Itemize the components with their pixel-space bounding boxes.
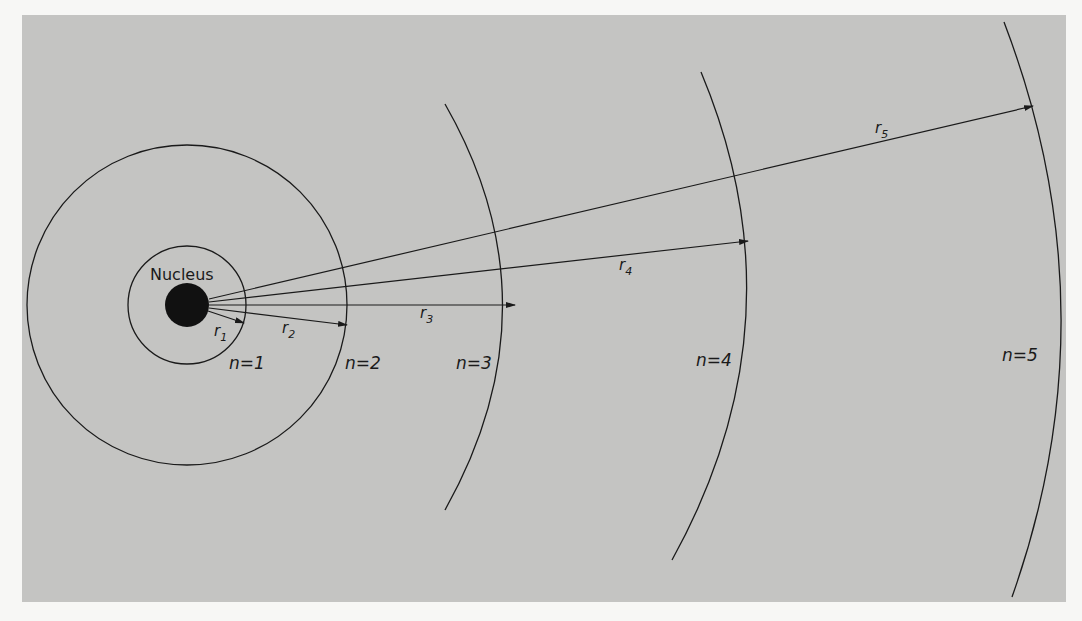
nucleus — [165, 283, 209, 327]
radius-label-r5: r5 — [875, 119, 888, 141]
radius-label-r2: r2 — [282, 319, 295, 341]
orbit-label-n5: n=5 — [1002, 345, 1038, 365]
radius-label-r3: r3 — [420, 304, 433, 326]
bohr-orbit-diagram: Nucleus r1 r2 r3 r4 r5 n=1 n=2 n=3 n=4 n… — [0, 0, 1082, 621]
nucleus-label: Nucleus — [150, 265, 214, 284]
radius-label-r4: r4 — [619, 256, 632, 278]
orbit-n4-arc — [672, 72, 747, 560]
orbit-n5-arc — [1004, 22, 1061, 597]
orbit-label-n3: n=3 — [456, 353, 492, 373]
radius-label-r1: r1 — [214, 322, 227, 344]
radius-arrow-r2 — [209, 308, 347, 325]
orbit-n3-arc — [445, 104, 503, 510]
orbit-label-n4: n=4 — [696, 350, 732, 370]
radius-arrow-r4 — [209, 241, 748, 302]
orbit-label-n1: n=1 — [229, 353, 265, 373]
orbit-label-n2: n=2 — [345, 353, 381, 373]
